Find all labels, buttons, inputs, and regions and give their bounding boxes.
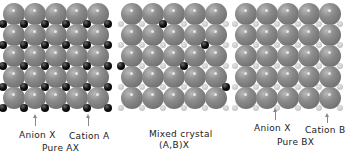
anion-x	[277, 45, 299, 67]
anion-x	[235, 45, 257, 67]
anion-x	[298, 45, 320, 67]
label-mixed-formula: (A,B)X	[159, 140, 189, 150]
anion-x	[298, 3, 320, 25]
anion-x	[256, 45, 278, 67]
panel-mixed-crystal: Mixed crystal (A,B)X	[118, 0, 232, 160]
cation-b	[274, 21, 280, 27]
anion-x	[142, 45, 164, 67]
anion-x	[121, 3, 143, 25]
label-mixed-crystal: Mixed crystal	[149, 129, 213, 139]
cation-a	[20, 41, 28, 49]
anion-x	[256, 3, 278, 25]
cation-b	[232, 84, 238, 90]
anion-x	[121, 24, 143, 46]
cation-a	[41, 83, 49, 91]
cation-b	[139, 42, 145, 48]
cation-a	[20, 62, 28, 70]
cation-a	[83, 20, 91, 28]
anion-x	[235, 66, 257, 88]
cation-b	[160, 84, 166, 90]
cation-a	[83, 104, 91, 112]
cation-a	[20, 20, 28, 28]
cation-b	[232, 105, 238, 111]
cation-b	[295, 84, 301, 90]
cation-b	[337, 63, 343, 69]
cation-b	[337, 84, 343, 90]
cation-b	[160, 42, 166, 48]
cation-b	[223, 105, 229, 111]
anion-x	[142, 87, 164, 109]
cation-b	[295, 21, 301, 27]
cation-b	[139, 63, 145, 69]
anion-x	[277, 87, 299, 109]
cation-a	[62, 20, 70, 28]
cation-b	[118, 105, 124, 111]
label-pure-bx: Pure BX	[277, 137, 314, 147]
anion-x	[184, 87, 206, 109]
label-cation-b: Cation B	[305, 125, 345, 135]
cation-a	[20, 104, 28, 112]
cation-a	[62, 62, 70, 70]
cation-b	[253, 63, 259, 69]
cation-a	[83, 62, 91, 70]
cation-b	[223, 21, 229, 27]
cation-b	[316, 42, 322, 48]
cation-b	[274, 84, 280, 90]
anion-x	[235, 87, 257, 109]
cation-b	[118, 84, 124, 90]
anion-x	[142, 66, 164, 88]
cation-a	[41, 41, 49, 49]
cation-a	[201, 41, 209, 49]
cation-b	[253, 21, 259, 27]
cation-a	[104, 104, 112, 112]
cation-b	[118, 21, 124, 27]
anion-x	[256, 24, 278, 46]
cation-a	[0, 104, 7, 112]
cation-b	[274, 63, 280, 69]
cation-a	[83, 83, 91, 91]
arrow-cation-b	[327, 116, 328, 123]
cation-b	[316, 21, 322, 27]
cation-b	[181, 84, 187, 90]
anion-x	[256, 66, 278, 88]
cation-b	[202, 105, 208, 111]
cation-a	[41, 20, 49, 28]
cation-b	[139, 21, 145, 27]
cation-b	[253, 105, 259, 111]
cation-a	[62, 104, 70, 112]
cation-b	[253, 84, 259, 90]
cation-b	[202, 84, 208, 90]
anion-x	[205, 3, 227, 25]
lattice-pure-bx	[235, 3, 347, 119]
label-pure-ax: Pure AX	[42, 143, 79, 153]
anion-x	[319, 24, 341, 46]
arrow-anion-x	[35, 117, 36, 126]
anion-x	[319, 87, 341, 109]
cation-b	[202, 63, 208, 69]
cation-a	[222, 83, 230, 91]
label-anion-x: Anion X	[254, 123, 291, 133]
anion-x	[235, 24, 257, 46]
cation-a	[41, 62, 49, 70]
anion-x	[184, 66, 206, 88]
cation-a	[104, 83, 112, 91]
cation-b	[181, 42, 187, 48]
cation-a	[62, 83, 70, 91]
cation-a	[180, 62, 188, 70]
label-cation-a: Cation A	[69, 131, 109, 141]
label-anion-x: Anion X	[19, 130, 56, 140]
anion-x	[184, 3, 206, 25]
cation-b	[337, 42, 343, 48]
cation-a	[41, 104, 49, 112]
cation-b	[223, 42, 229, 48]
cation-a	[62, 41, 70, 49]
cation-b	[202, 21, 208, 27]
panel-pure-ax: Anion X Cation A Pure AX	[0, 0, 118, 160]
anion-x	[319, 3, 341, 25]
cation-b	[160, 105, 166, 111]
anion-x	[205, 45, 227, 67]
arrow-anion-x	[275, 111, 276, 120]
cation-b	[232, 21, 238, 27]
cation-b	[316, 63, 322, 69]
cation-b	[295, 63, 301, 69]
